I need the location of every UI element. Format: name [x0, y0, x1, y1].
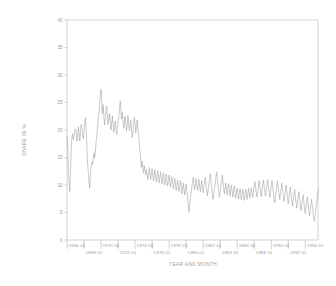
chart-figure: 0510152025303540 1966 011970 011974 0119… [0, 0, 336, 286]
y-tick-label: 25 [57, 100, 63, 105]
y-tick-label: 5 [60, 210, 63, 215]
x-tick-label: 1986 01 [239, 243, 256, 248]
x-tick-label: 1990 01 [273, 243, 290, 248]
y-tick-label: 30 [57, 73, 63, 78]
y-tick-label: 15 [57, 155, 63, 160]
x-tick-label: 1970 01 [103, 243, 120, 248]
y-tick-label: 10 [57, 183, 63, 188]
y-tick-label: 35 [57, 45, 63, 50]
line-chart: 0510152025303540 1966 011970 011974 0119… [0, 0, 336, 286]
x-tick-label: 1980 01 [188, 250, 205, 255]
x-tick-label: 1978 01 [171, 243, 188, 248]
x-tick-label: 1982 01 [205, 243, 222, 248]
x-tick-label: 1972 01 [120, 250, 137, 255]
series-line-share [67, 89, 319, 221]
y-axis: 0510152025303540 [57, 18, 67, 243]
y-axis-title: SHARE IN % [22, 124, 27, 156]
x-tick-label: 1968 01 [86, 250, 103, 255]
y-tick-label: 20 [57, 128, 63, 133]
x-tick-label: 1966 01 [69, 243, 86, 248]
x-tick-label: 1984 01 [222, 250, 239, 255]
x-tick-label: 1974 01 [137, 243, 154, 248]
x-tick-label: 1988 01 [256, 250, 273, 255]
plot-frame [67, 20, 318, 240]
x-tick-label: 1976 01 [154, 250, 171, 255]
y-tick-label: 0 [60, 238, 63, 243]
x-axis-title: YEAR AND MONTH [169, 262, 217, 267]
x-axis: 1966 011970 011974 011978 011982 011986 … [67, 240, 324, 255]
x-tick-label: 1994 01 [307, 243, 324, 248]
x-tick-label: 1992 01 [290, 250, 307, 255]
y-tick-label: 40 [57, 18, 63, 23]
